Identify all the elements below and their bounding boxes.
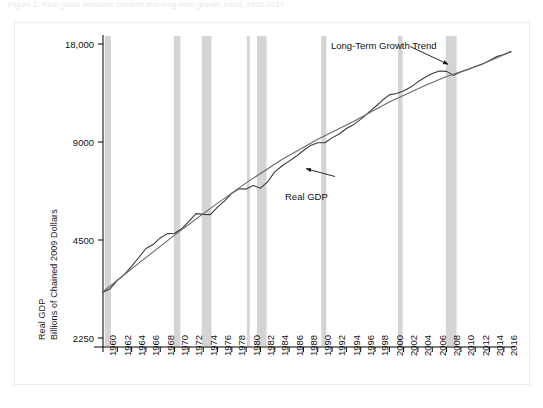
x-tick-label-1996: 1996 — [365, 335, 376, 356]
x-tick-label-1972: 1972 — [193, 335, 204, 356]
x-tick-label-1992: 1992 — [336, 335, 347, 356]
x-tick-label-1982: 1982 — [265, 335, 276, 356]
x-tick-label-2006: 2006 — [437, 335, 448, 356]
x-tick-label-1980: 1980 — [251, 335, 262, 356]
x-tick-label-2000: 2000 — [394, 335, 405, 356]
x-tick-label-1994: 1994 — [351, 335, 362, 356]
x-tick-label-1960: 1960 — [107, 335, 118, 356]
x-tick-label-1998: 1998 — [379, 335, 390, 356]
x-tick-label-2014: 2014 — [494, 335, 505, 356]
x-tick-label-1990: 1990 — [322, 335, 333, 356]
x-tick-label-2012: 2012 — [480, 335, 491, 356]
x-tick-label-1974: 1974 — [208, 335, 219, 356]
x-tick-label-1976: 1976 — [222, 335, 233, 356]
annotation-real-gdp: Real GDP — [285, 191, 328, 202]
x-tick-label-1970: 1970 — [179, 335, 190, 356]
x-tick-label-2010: 2010 — [465, 335, 476, 356]
x-tick-label-2016: 2016 — [508, 335, 519, 356]
x-tick-label-1966: 1966 — [150, 335, 161, 356]
x-tick-label-1968: 1968 — [165, 335, 176, 356]
x-tick-label-1962: 1962 — [122, 335, 133, 356]
x-tick-label-1978: 1978 — [236, 335, 247, 356]
x-tick-label-1984: 1984 — [279, 335, 290, 356]
x-tick-label-2004: 2004 — [422, 335, 433, 356]
x-tick-label-1988: 1988 — [308, 335, 319, 356]
x-tick-label-1964: 1964 — [136, 335, 147, 356]
x-tick-label-1986: 1986 — [294, 335, 305, 356]
x-tick-label-2008: 2008 — [451, 335, 462, 356]
x-tick-label-2002: 2002 — [408, 335, 419, 356]
annotation-long-term-growth-trend: Long-Term Growth Trend — [331, 40, 437, 51]
x-axis-tick-labels: 1960196219641966196819701972197419761978… — [0, 0, 543, 408]
chart-figure: Figure 1. Real gross domestic product an… — [0, 0, 543, 408]
